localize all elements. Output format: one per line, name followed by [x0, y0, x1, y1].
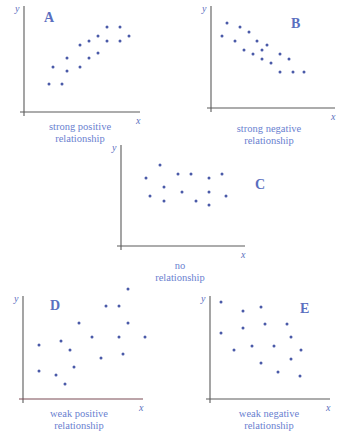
data-point — [52, 66, 55, 69]
scatter-figure: yxA yxB yxC yxD yxE — [0, 0, 339, 444]
data-point — [119, 40, 122, 43]
data-point — [221, 35, 224, 38]
data-point — [106, 40, 109, 43]
caption-a-line2: relationship — [20, 133, 140, 145]
data-point — [290, 358, 293, 361]
data-point — [145, 177, 148, 180]
data-point — [256, 40, 259, 43]
y-axis-label-d: y — [13, 293, 19, 304]
y-axis-label-b: y — [201, 3, 207, 14]
y-axis-label-a: y — [14, 3, 20, 14]
data-point — [48, 83, 51, 86]
caption-c-line1: no — [120, 260, 240, 272]
data-point — [226, 22, 229, 25]
data-point — [119, 26, 122, 29]
data-point — [208, 177, 211, 180]
data-point — [221, 173, 224, 176]
data-point — [252, 53, 255, 56]
caption-c-line2: relationship — [120, 272, 240, 284]
data-point — [225, 195, 228, 198]
panel-label-b: B — [291, 16, 300, 31]
data-point — [88, 57, 91, 60]
data-point — [100, 357, 103, 360]
data-point — [248, 31, 251, 34]
data-point — [208, 204, 211, 207]
caption-e: weak negative relationship — [209, 408, 329, 432]
data-point — [299, 375, 302, 378]
data-point — [239, 26, 242, 29]
data-point — [69, 349, 72, 352]
data-point — [149, 195, 152, 198]
data-point — [128, 35, 131, 38]
caption-b-line2: relationship — [209, 135, 329, 147]
caption-b: strong negative relationship — [209, 123, 329, 147]
data-point — [290, 336, 293, 339]
data-point — [91, 336, 94, 339]
data-point — [66, 70, 69, 73]
data-point — [279, 53, 282, 56]
scatter-panel-d: yxD — [13, 288, 147, 414]
data-point — [300, 349, 303, 352]
data-point — [220, 301, 223, 304]
data-point — [261, 58, 264, 61]
y-axis-label-e: y — [200, 293, 206, 304]
data-point — [242, 327, 245, 330]
data-point — [78, 322, 81, 325]
data-point — [79, 44, 82, 47]
data-point — [260, 306, 263, 309]
data-point — [73, 366, 76, 369]
data-point — [38, 370, 41, 373]
data-point — [61, 83, 64, 86]
data-point — [38, 344, 41, 347]
scatter-panel-c: yxC — [111, 142, 265, 260]
data-point — [277, 371, 280, 374]
data-point — [159, 164, 162, 167]
data-point — [66, 57, 69, 60]
data-point — [105, 305, 108, 308]
data-point — [303, 71, 306, 74]
panel-label-c: C — [255, 177, 265, 192]
data-point — [106, 26, 109, 29]
caption-d-line1: weak positive — [19, 408, 139, 420]
x-axis-label-b: x — [330, 111, 336, 122]
data-point — [190, 173, 193, 176]
data-point — [122, 353, 125, 356]
caption-a-line1: strong positive — [20, 121, 140, 133]
data-point — [234, 40, 237, 43]
x-axis-label-c: x — [240, 249, 246, 260]
data-point — [264, 323, 267, 326]
data-point — [64, 383, 67, 386]
scatter-panel-a: yxA — [14, 3, 141, 126]
data-point — [242, 310, 245, 313]
data-point — [266, 44, 269, 47]
caption-b-line1: strong negative — [209, 123, 329, 135]
data-point — [292, 71, 295, 74]
data-point — [88, 40, 91, 43]
caption-e-line2: relationship — [209, 420, 329, 432]
data-point — [177, 173, 180, 176]
panel-label-a: A — [44, 10, 55, 25]
data-point — [181, 191, 184, 194]
data-point — [195, 200, 198, 203]
data-point — [97, 52, 100, 55]
data-point — [270, 62, 273, 65]
panel-label-d: D — [50, 298, 60, 313]
data-point — [118, 305, 121, 308]
data-point — [127, 288, 130, 291]
data-point — [243, 49, 246, 52]
caption-c: no relationship — [120, 260, 240, 284]
data-point — [279, 71, 282, 74]
data-point — [208, 191, 211, 194]
scatter-panel-e: yxE — [200, 293, 331, 413]
data-point — [60, 340, 63, 343]
data-point — [260, 362, 263, 365]
caption-e-line1: weak negative — [209, 408, 329, 420]
scatter-panel-b: yxB — [201, 3, 336, 122]
data-point — [127, 322, 130, 325]
data-point — [163, 186, 166, 189]
data-point — [251, 345, 254, 348]
data-point — [118, 336, 121, 339]
data-point — [261, 49, 264, 52]
caption-d-line2: relationship — [19, 420, 139, 432]
data-point — [79, 66, 82, 69]
